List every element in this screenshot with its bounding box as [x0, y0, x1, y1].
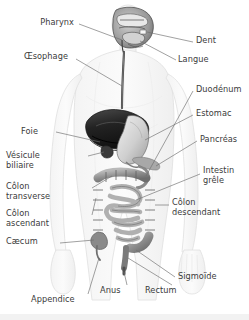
label-rectum: Rectum: [145, 286, 177, 296]
label-colon-ascendant: Côlonascendant: [6, 209, 49, 228]
label-colon-ascendant-line1: Côlon: [6, 208, 29, 218]
label-colon-descendant-line2: descendant: [172, 207, 220, 217]
label-colon-ascendant-line2: ascendant: [6, 218, 49, 228]
label-pancreas: Pancréas: [200, 135, 237, 145]
label-colon-transverse-line1: Côlon: [6, 181, 29, 191]
label-vesicule-biliaire: Vésiculebiliaire: [6, 151, 40, 170]
rectum-shape: [124, 248, 126, 268]
tooth-shape: [140, 30, 146, 34]
label-intestin-grele-line1: Intestin: [203, 165, 234, 175]
label-colon-transverse: Côlontransverse: [6, 182, 50, 201]
leader-dent: [147, 32, 193, 42]
label-sigmoide: Sigmoïde: [178, 272, 217, 282]
label-colon-descendant: Côlondescendant: [172, 198, 220, 217]
label-anus: Anus: [100, 286, 120, 296]
label-vesicule-biliaire-line1: Vésicule: [6, 150, 40, 160]
label-colon-transverse-line2: transverse: [6, 191, 50, 201]
label-vesicule-biliaire-line2: biliaire: [6, 160, 34, 170]
bottom-band: [0, 314, 249, 320]
label-duodenum: Duodénum: [196, 85, 242, 95]
label-colon-descendant-line1: Côlon: [172, 197, 195, 207]
label-langue: Langue: [178, 55, 209, 65]
label-appendice: Appendice: [31, 295, 75, 305]
label-intestin-grele-line2: grêle: [203, 175, 224, 185]
caecum-shape: [91, 232, 108, 249]
label-intestin-grele: Intestingrêle: [203, 166, 234, 185]
label-oesophage: Œsophage: [24, 52, 68, 62]
label-caecum: Cæcum: [6, 237, 38, 247]
label-estomac: Estomac: [196, 109, 232, 119]
gallbladder-shape: [101, 146, 113, 158]
head-section: [113, 7, 154, 54]
label-dent: Dent: [196, 36, 216, 46]
label-pharynx: Pharynx: [40, 18, 74, 28]
label-foie: Foie: [21, 127, 38, 137]
digestive-system-figure: Pharynx Œsophage Foie Vésiculebiliaire C…: [0, 0, 249, 320]
